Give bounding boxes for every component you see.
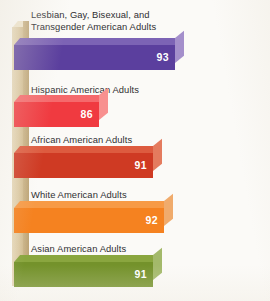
bar-end-cap-face: [99, 88, 108, 120]
bar-end-cap-face: [175, 31, 184, 63]
bar-rows: Lesbian, Gay, Bisexual, and Transgender …: [0, 0, 270, 301]
bar-chart: Lesbian, Gay, Bisexual, and Transgender …: [0, 0, 270, 301]
bar-front-face: [14, 45, 175, 70]
bar-top-face: [14, 146, 159, 153]
bar-front-face: [14, 208, 164, 233]
bar-category-label: Asian American Adults: [31, 243, 126, 255]
bar-top-face: [14, 201, 170, 208]
bar-value-label: 93: [156, 45, 169, 70]
bar-category-label: White American Adults: [31, 189, 127, 201]
bar-front-face: [14, 153, 153, 178]
bar-end-cap-face: [153, 248, 162, 280]
bar-value-label: 86: [80, 102, 93, 127]
bar-category-label: Lesbian, Gay, Bisexual, and Transgender …: [31, 9, 156, 34]
bar-value-label: 91: [134, 262, 147, 287]
bar-top-face: [14, 38, 181, 45]
bar-front-face: [14, 262, 153, 287]
bar-value-label: 92: [145, 208, 158, 233]
bar-end-cap-face: [164, 194, 173, 226]
bar-top-face: [14, 255, 159, 262]
bar-category-label: African American Adults: [31, 134, 132, 146]
bar-top-face: [14, 95, 105, 102]
bar-end-cap-face: [153, 139, 162, 171]
bar-value-label: 91: [134, 153, 147, 178]
